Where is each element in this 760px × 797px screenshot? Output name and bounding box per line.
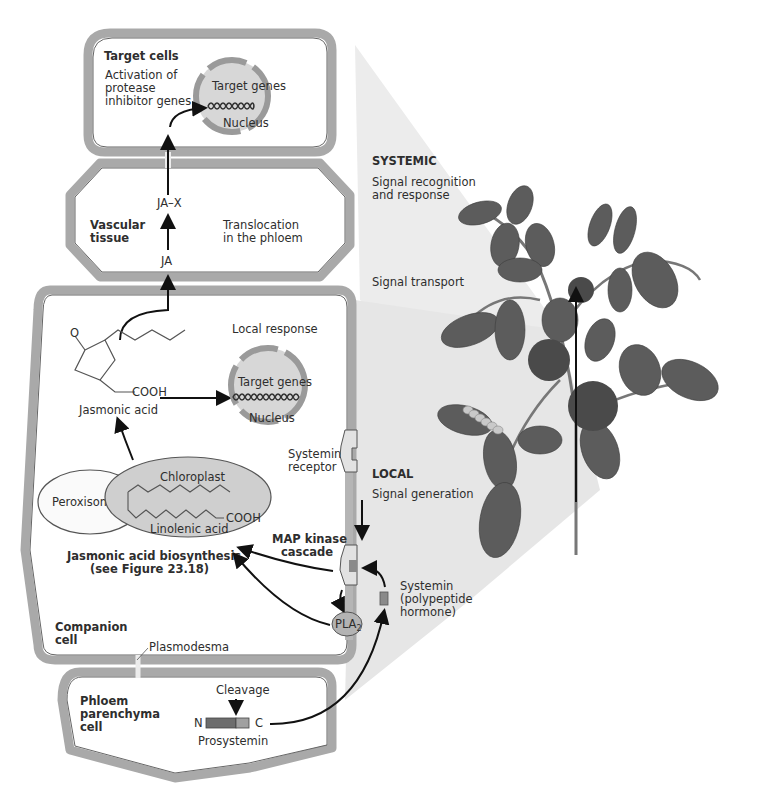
plasmodesma-label: Plasmodesma (149, 640, 229, 654)
systemin-2: (polypeptide (400, 592, 473, 606)
nucleus-label-2: Nucleus (249, 411, 295, 425)
companion-title-1: Companion (55, 620, 128, 634)
map-kinase-1: MAP kinase (272, 532, 347, 546)
phloem-title-3: cell (80, 720, 103, 734)
target-desc-1: Activation of (105, 68, 178, 82)
target-genes-label: Target genes (211, 79, 286, 93)
prosystemin-label: Prosystemin (198, 734, 268, 748)
jasmonic-acid-structure (75, 330, 185, 392)
c-terminus: C (255, 716, 263, 730)
linolenic-acid-label: Linolenic acid (150, 522, 229, 536)
biosynthesis-to-ja-arrow (118, 420, 133, 460)
prosystemin-n-segment (206, 718, 236, 728)
pla2-arrow (235, 555, 330, 625)
systemin-receptor-1: Systemin (288, 447, 341, 461)
phloem-title-2: parenchyma (80, 707, 160, 721)
tomato-fruit (568, 277, 594, 303)
nucleus-label: Nucleus (223, 116, 269, 130)
oxo-group: O (70, 326, 79, 340)
signal-recognition-1: Signal recognition (372, 175, 476, 189)
systemin-1: Systemin (400, 579, 453, 593)
target-cells-title: Target cells (104, 49, 179, 63)
signal-transport-label: Signal transport (372, 275, 465, 289)
systemic-label: SYSTEMIC (372, 154, 437, 168)
n-terminus: N (194, 716, 203, 730)
map-kinase-2: cascade (281, 545, 333, 559)
bound-systemin (349, 560, 357, 572)
target-desc-3: inhibitor genes (105, 94, 191, 108)
linolenic-cooh: COOH (226, 511, 261, 525)
signal-recognition-2: and response (372, 188, 450, 202)
to-pla2-arrow (340, 590, 343, 610)
vascular-title-1: Vascular (90, 218, 146, 232)
translocation-1: Translocation (222, 218, 299, 232)
target-desc-2: protease (105, 81, 156, 95)
ja-label: JA (160, 254, 172, 268)
chloroplast-label: Chloroplast (160, 470, 226, 484)
ja-x-label: JA–X (156, 196, 182, 210)
figure-canvas: Target cells Activation of protease inhi… (0, 0, 760, 797)
signal-generation-label: Signal generation (372, 487, 474, 501)
systemin-receptor-2: receptor (288, 460, 337, 474)
companion-title-2: cell (55, 633, 78, 647)
biosynthesis-ref: (see Figure 23.18) (90, 562, 209, 576)
cleavage-label: Cleavage (216, 683, 270, 697)
target-genes-label-2: Target genes (237, 375, 312, 389)
ja-cooh: COOH (132, 385, 167, 399)
vascular-title-2: tissue (90, 231, 129, 245)
phloem-title-1: Phloem (80, 694, 128, 708)
local-response-label: Local response (232, 322, 318, 336)
translocation-2: in the phloem (223, 231, 303, 245)
systemin-3: hormone) (400, 605, 456, 619)
prosystemin-c-segment (236, 718, 249, 728)
tomato-fruit (528, 339, 570, 381)
jasmonic-acid-label: Jasmonic acid (78, 403, 158, 417)
local-label: LOCAL (372, 467, 414, 481)
systemin-peptide (380, 592, 388, 605)
biosynthesis-title: Jasmonic acid biosynthesis (66, 549, 241, 563)
